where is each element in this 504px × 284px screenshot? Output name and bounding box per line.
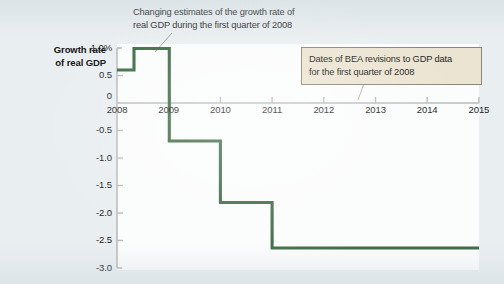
x-tick-label-2015: 2015	[459, 104, 499, 115]
y-axis-title-line2: of real GDP	[8, 57, 106, 70]
annotation-bea-revision-dates: Dates of BEA revisions to GDP data for t…	[301, 47, 482, 85]
annotation-changing-estimates-line2: real GDP during the first quarter of 200…	[133, 19, 294, 32]
x-tick-label-2011: 2011	[252, 104, 292, 115]
annotation-bea-revision-dates-line2: for the first quarter of 2008	[309, 66, 474, 79]
y-tick-label-0.5: 0.5	[60, 69, 112, 80]
x-tick-label-2008: 2008	[97, 104, 137, 115]
y-tick-label--1.5: -1.5	[60, 179, 112, 190]
y-tick-label--0.5: -0.5	[60, 124, 112, 135]
y-tick-label--2.5: -2.5	[60, 234, 112, 245]
x-tick-label-2014: 2014	[407, 104, 447, 115]
y-tick-label-0: 0	[60, 90, 112, 101]
y-tick-label--2.0: -2.0	[60, 207, 112, 218]
gdp-revision-figure: 1.0% 0.5 0 -0.5 -1.0 -1.5 -2.0 -2.5 -3.0…	[0, 0, 504, 284]
x-tick-label-2012: 2012	[304, 104, 344, 115]
x-tick-marks	[169, 97, 479, 103]
annotation-bea-revision-dates-line1: Dates of BEA revisions to GDP data	[309, 53, 474, 66]
y-tick-label--1.0: -1.0	[60, 152, 112, 163]
y-tick-marks	[117, 76, 123, 241]
annotation-changing-estimates: Changing estimates of the growth rate of…	[133, 6, 294, 31]
x-tick-label-2013: 2013	[356, 104, 396, 115]
x-tick-label-2010: 2010	[200, 104, 240, 115]
annotation-changing-estimates-line1: Changing estimates of the growth rate of	[133, 6, 294, 19]
y-tick-label--3.0: -3.0	[60, 262, 112, 273]
x-tick-label-2009: 2009	[149, 104, 189, 115]
y-axis-title: Growth rate of real GDP	[8, 44, 106, 69]
y-axis-title-line1: Growth rate	[8, 44, 106, 57]
